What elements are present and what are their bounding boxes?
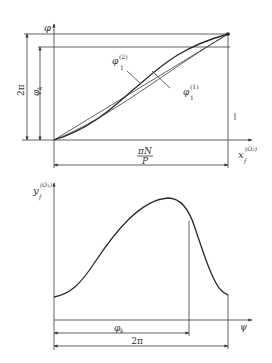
top-dim-phik-label: φ k [31,86,43,96]
svg-text:P: P [141,156,149,166]
top-plot: φ 2π φ k φ (2) 1 φ (1) 1 πN P x (O₂) f [16,22,258,168]
svg-text:k: k [36,86,43,90]
top-y-axis-label: φ [44,22,51,33]
bottom-plot: y (O₁) f ψ φ k 2π [32,181,252,350]
svg-text:πN: πN [137,146,153,156]
svg-text:φ: φ [183,87,190,97]
curve-phi1-1-label: φ (1) 1 [183,83,199,101]
bottom-y-axis-label: y (O₁) f [32,181,53,201]
bottom-dim-2pi-label: 2π [131,336,143,346]
top-x-axis-label: x (O₂) f [238,145,258,165]
top-dim-2pi-label: 2π [16,84,26,96]
svg-text:φ: φ [112,56,119,66]
top-endpoint-dot [226,32,230,36]
curve-phi1-2-label: φ (2) 1 [112,53,128,71]
leader-phi1-2 [127,71,141,84]
svg-text:y: y [32,185,39,196]
bottom-dim-phik-label: φ k [114,323,124,334]
svg-text:(O₁): (O₁) [40,181,53,188]
svg-text:k: k [120,327,124,334]
svg-text:(2): (2) [119,53,128,60]
svg-text:1: 1 [190,94,194,101]
bottom-curve [54,198,228,297]
svg-text:1: 1 [120,64,124,71]
svg-text:(1): (1) [190,83,199,90]
svg-text:(O₂): (O₂) [245,145,258,152]
svg-text:f: f [38,193,43,201]
top-dim-x-label: πN P [137,146,153,166]
svg-text:f: f [243,157,248,165]
curve-phi1-1-straight [54,34,228,140]
diagram-canvas: φ 2π φ k φ (2) 1 φ (1) 1 πN P x (O₂) f [0,0,272,363]
bottom-x-axis-label: ψ [240,322,248,332]
